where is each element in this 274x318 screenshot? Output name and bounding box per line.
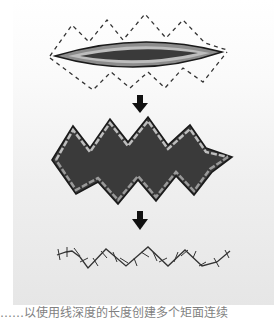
figure-caption: ……以使用线深度的长度创建多个矩面连续	[0, 306, 274, 318]
sutured-zigzag-line	[57, 247, 230, 268]
zigzag-wound	[52, 117, 232, 204]
zplasty-diagram	[0, 0, 274, 318]
down-arrow-icon	[132, 211, 148, 230]
elliptical-wound	[55, 42, 222, 67]
down-arrow-icon	[132, 95, 148, 113]
